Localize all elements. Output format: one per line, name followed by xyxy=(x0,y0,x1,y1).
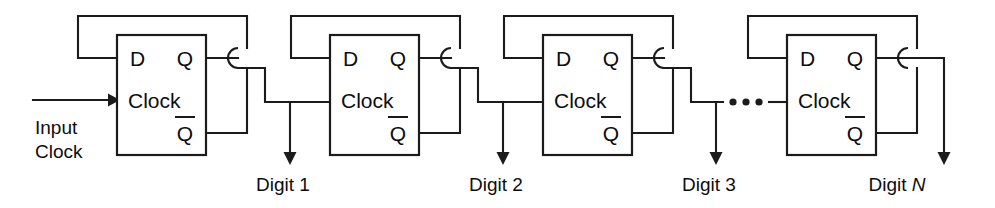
input-clock-label-line1: Input xyxy=(35,117,78,138)
stage-n-q-wire-right xyxy=(908,58,944,152)
stage-n-output-symbol: N xyxy=(912,174,926,195)
stage-1: D Q Clock Q Digit 1 xyxy=(78,16,330,195)
flip-flop-n-q-label: Q xyxy=(847,47,863,70)
stage-n: D Q Clock Q Digit N xyxy=(748,16,951,195)
flip-flop-2-qbar-label: Q xyxy=(390,122,406,145)
stage-3-output-label: Digit 3 xyxy=(682,174,736,195)
flip-flop-1-q-label: Q xyxy=(177,47,193,70)
stage-n-digit-arrowhead xyxy=(938,152,951,165)
input-clock-label-line2: Clock xyxy=(35,141,83,162)
flip-flop-2-d-label: D xyxy=(343,47,358,70)
flip-flop-1-d-label: D xyxy=(130,47,145,70)
stage-2-output-label: Digit 2 xyxy=(469,174,523,195)
flip-flop-3-d-label: D xyxy=(556,47,571,70)
stage-1-output-label: Digit 1 xyxy=(256,174,310,195)
stage-1-qbar-wire xyxy=(206,68,247,133)
stage-3-qbar-wire xyxy=(632,68,673,133)
stages-ellipsis-icon xyxy=(729,98,762,105)
stage-1-digit-arrowhead xyxy=(284,152,297,165)
stage-2-q-wire-right xyxy=(451,68,543,102)
flip-flop-n-d-label: D xyxy=(800,47,815,70)
flip-flop-n-clock-label: Clock xyxy=(798,89,851,112)
flip-flop-1-clock-label: Clock xyxy=(128,89,181,112)
flip-flop-3-q-label: Q xyxy=(603,47,619,70)
circuit-schematic: Input Clock D Q Clock Q Digit 1 xyxy=(0,0,995,208)
flip-flop-n-qbar-label: Q xyxy=(847,122,863,145)
stage-2-qbar-wire xyxy=(419,68,460,133)
stage-3-digit-arrowhead xyxy=(710,152,723,165)
stage-2-digit-arrowhead xyxy=(497,152,510,165)
flip-flop-1-qbar-label: Q xyxy=(177,122,193,145)
flip-flop-3-qbar-label: Q xyxy=(603,122,619,145)
stage-n-qbar-wire xyxy=(876,68,917,133)
stage-n-output-word: Digit xyxy=(868,174,907,195)
stage-3: D Q Clock Q Digit 3 xyxy=(504,16,736,195)
input-clock-wire xyxy=(33,94,120,107)
flip-flop-2-q-label: Q xyxy=(390,47,406,70)
stage-2: D Q Clock Q Digit 2 xyxy=(291,16,543,195)
stage-1-q-wire-right xyxy=(238,68,330,102)
flip-flop-2-clock-label: Clock xyxy=(341,89,394,112)
stage-n-output-label: Digit N xyxy=(868,174,925,195)
flip-flop-3-clock-label: Clock xyxy=(554,89,607,112)
ripple-counter-diagram: Input Clock D Q Clock Q Digit 1 xyxy=(0,0,995,208)
